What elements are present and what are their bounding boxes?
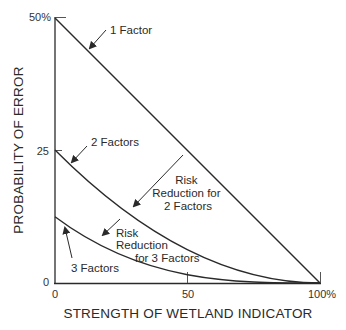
rr2-line-1: Risk [175,174,198,186]
rr3-line-1: Risk [116,227,139,239]
risk-reduction-chart: 50% 25 0 0 50 100% STRENGTH OF WETLAND I… [0,0,346,330]
x-tick-label-50: 50 [182,288,194,300]
arrow-2-factors [72,146,87,162]
label-3-factors: 3 Factors [71,262,119,274]
rr2-line-2: Reduction for [152,187,221,199]
arrow-3-factors [65,228,72,258]
y-tick-label-25: 25 [37,145,49,157]
rr3-line-2: Reduction [116,239,168,251]
label-2-factors: 2 Factors [91,136,139,148]
y-tick-label-0: 0 [43,276,49,288]
label-1-factor: 1 Factor [110,24,152,36]
y-tick-label-50: 50% [29,11,51,23]
rr3-line-3: for 3 Factors [135,252,200,264]
curve-1-factor [55,18,320,283]
label-risk-reduction-2: Risk Reduction for 2 Factors [152,174,224,212]
arrow-1-factor [90,30,106,48]
x-tick-label-0: 0 [52,288,58,300]
rr2-line-3: 2 Factors [164,200,212,212]
y-axis-title: PROBABILITY OF ERROR [11,66,26,233]
x-tick-label-100: 100% [308,288,336,300]
x-axis-title: STRENGTH OF WETLAND INDICATOR [63,306,312,321]
